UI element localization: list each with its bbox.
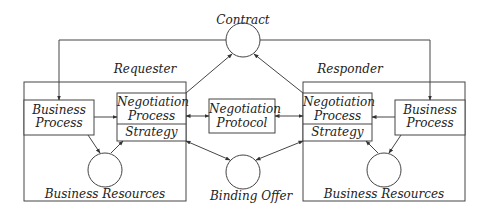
responder-resources-circle: [367, 153, 401, 187]
requester-negotiation-line1: Negotiation: [117, 96, 186, 109]
requester-resources-circle: [88, 153, 122, 187]
protocol-line1: Negotiation: [209, 103, 275, 116]
binding-offer-requester-arrow: [186, 141, 230, 160]
responder-negotiation-line1: Negotiation: [303, 96, 372, 109]
binding-offer-circle: [226, 155, 260, 189]
responder-strategy-label: Strategy: [303, 126, 372, 139]
responder-negotiation-line2: Process: [303, 110, 372, 123]
responder-resources-label: Business Resources: [319, 188, 449, 201]
protocol-line2: Protocol: [209, 117, 275, 130]
requester-bp-to-resources-arrow: [88, 135, 100, 153]
responder-bp-to-resources-arrow: [389, 135, 401, 153]
responder-resources-to-negotiation-arrow: [366, 141, 378, 153]
contract-label: Contract: [213, 14, 273, 27]
requester-label: Requester: [105, 63, 185, 76]
requester-negotiation-line2: Process: [117, 110, 186, 123]
binding-offer-label: Binding Offer: [210, 190, 276, 203]
requester-strategy-label: Strategy: [117, 126, 186, 139]
requester-resources-label: Business Resources: [40, 188, 170, 201]
requester-resources-to-negotiation-arrow: [111, 141, 123, 153]
negotiation-diagram: Contract Binding Offer Requester Respond…: [0, 0, 487, 213]
responder-label: Responder: [310, 63, 390, 76]
requester-to-contract-arrow: [186, 54, 232, 93]
responder-to-contract-arrow: [254, 54, 303, 93]
contract-circle: [226, 23, 260, 57]
binding-offer-responder-arrow: [256, 141, 303, 160]
responder-business-process-line2: Process: [395, 117, 465, 130]
requester-business-process-line2: Process: [24, 117, 94, 130]
